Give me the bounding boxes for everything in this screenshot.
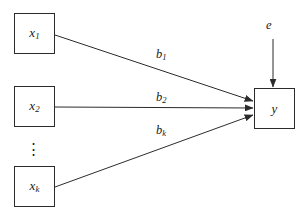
edge-b1-arrow bbox=[55, 35, 253, 101]
node-y-label: y bbox=[272, 102, 278, 115]
path-diagram: x1 x2 ⋮ xk y e b1 b2 bk bbox=[0, 0, 304, 217]
node-x2[interactable]: x2 bbox=[14, 86, 55, 127]
node-y[interactable]: y bbox=[254, 88, 295, 129]
edge-bk-arrow bbox=[55, 115, 253, 187]
edge-b2-arrow bbox=[55, 107, 253, 108]
vertical-ellipsis-icon: ⋮ bbox=[26, 136, 40, 162]
node-x2-label: x2 bbox=[29, 99, 40, 114]
node-xk-label: xk bbox=[29, 179, 39, 194]
edge-label-b2: b2 bbox=[156, 91, 167, 105]
node-xk[interactable]: xk bbox=[14, 166, 55, 207]
error-term-label: e bbox=[266, 19, 272, 32]
node-x1[interactable]: x1 bbox=[14, 13, 55, 54]
edge-label-b1: b1 bbox=[156, 48, 167, 62]
node-x1-label: x1 bbox=[29, 26, 40, 41]
edge-label-bk: bk bbox=[156, 124, 166, 138]
